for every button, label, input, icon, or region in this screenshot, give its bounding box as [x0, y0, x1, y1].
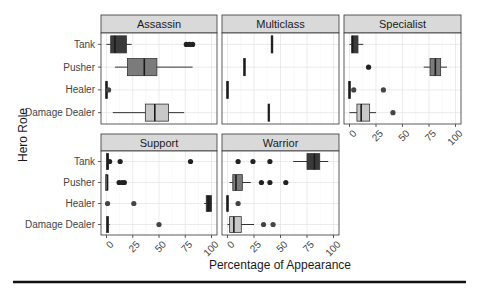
box: [111, 36, 127, 53]
x-tick-label: 25: [248, 238, 264, 254]
x-tick-label: 0: [347, 127, 359, 139]
x-tick-label: 100: [323, 238, 343, 258]
facet-strip-label: Multiclass: [256, 18, 305, 30]
y-tick-label: Healer: [66, 198, 96, 209]
outlier-point: [190, 42, 195, 47]
y-tick-label: Damage Dealer: [25, 107, 96, 118]
facet-panel-assassin: Assassin: [101, 15, 217, 124]
outlier-point: [106, 87, 111, 92]
x-axis-title: Percentage of Appearance: [209, 258, 351, 272]
boxplot-pusher: [244, 59, 246, 76]
outlier-point: [366, 65, 371, 70]
outlier-point: [236, 201, 241, 206]
box: [128, 59, 157, 76]
outlier-point: [236, 159, 241, 164]
boxplot-damage-dealer: [268, 104, 270, 121]
facet-panel-multiclass: Multiclass: [222, 15, 339, 124]
outlier-point: [283, 180, 288, 185]
y-tick-label: Tank: [74, 156, 96, 167]
outlier-point: [122, 180, 127, 185]
x-tick-label: 0: [225, 238, 237, 250]
facet-strip-label: Support: [140, 137, 179, 149]
boxplot-tank: [271, 36, 273, 53]
outlier-point: [267, 180, 272, 185]
box: [233, 175, 243, 191]
facet-panel-specialist: Specialist: [344, 15, 461, 124]
x-tick-label: 75: [179, 238, 195, 254]
x-tick-label: 75: [423, 127, 439, 143]
y-tick-label: Pusher: [63, 62, 95, 73]
y-tick-label: Pusher: [63, 177, 95, 188]
outlier-point: [107, 159, 112, 164]
x-tick-label: 25: [370, 127, 386, 143]
x-tick-label: 50: [153, 238, 169, 254]
outlier-point: [261, 222, 266, 227]
y-tick-label: Healer: [66, 84, 96, 95]
box: [145, 104, 168, 121]
y-axis: TankPusherHealerDamage DealerTankPusherH…: [25, 39, 101, 230]
outlier-point: [105, 201, 110, 206]
outlier-point: [270, 222, 275, 227]
facet-strip-label: Specialist: [379, 18, 426, 30]
outlier-point: [390, 110, 395, 115]
outlier-point: [381, 87, 386, 92]
outlier-point: [267, 159, 272, 164]
outlier-point: [156, 222, 161, 227]
outlier-point: [259, 180, 264, 185]
faceted-boxplot-chart: AssassinMulticlassSpecialistSupportWarri…: [0, 0, 477, 290]
y-tick-label: Damage Dealer: [25, 219, 96, 230]
facet-panels: AssassinMulticlassSpecialistSupportWarri…: [101, 15, 461, 235]
outlier-point: [118, 159, 123, 164]
y-axis-title: Hero Role: [16, 108, 30, 162]
outlier-point: [250, 159, 255, 164]
box: [357, 104, 370, 121]
boxplot-healer: [227, 81, 229, 98]
facet-strip-label: Assassin: [137, 18, 181, 30]
box: [307, 154, 320, 170]
facet-strip-label: Warrior: [263, 137, 299, 149]
x-tick-label: 0: [104, 238, 116, 250]
facet-panel-support: Support: [101, 134, 217, 235]
outlier-point: [351, 87, 356, 92]
box: [230, 217, 242, 233]
facet-panel-warrior: Warrior: [222, 134, 339, 235]
y-tick-label: Tank: [74, 39, 96, 50]
x-tick-label: 50: [396, 127, 412, 143]
x-tick-label: 75: [301, 238, 317, 254]
x-tick-label: 100: [445, 127, 465, 147]
x-tick-label: 50: [274, 238, 290, 254]
x-tick-label: 25: [126, 238, 142, 254]
outlier-point: [188, 159, 193, 164]
x-tick-label: 100: [201, 238, 221, 258]
outlier-point: [131, 201, 136, 206]
